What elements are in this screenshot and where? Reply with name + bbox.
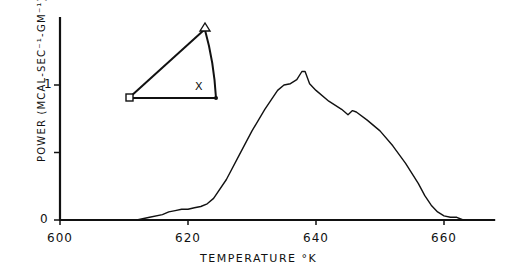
inset-sector-diagram bbox=[126, 23, 218, 101]
x-axis-label: TEMPERATURE °K bbox=[200, 252, 317, 265]
y-tick-1: 1 bbox=[44, 77, 52, 91]
axes bbox=[60, 17, 495, 220]
inset-x-mark: X bbox=[195, 80, 203, 93]
y-tick-0: 0 bbox=[40, 212, 48, 226]
x-tick-600: 600 bbox=[47, 231, 73, 245]
x-tick-660: 660 bbox=[431, 231, 457, 245]
x-tick-620: 620 bbox=[175, 231, 201, 245]
x-tick-640: 640 bbox=[303, 231, 329, 245]
power-curve bbox=[137, 72, 463, 221]
